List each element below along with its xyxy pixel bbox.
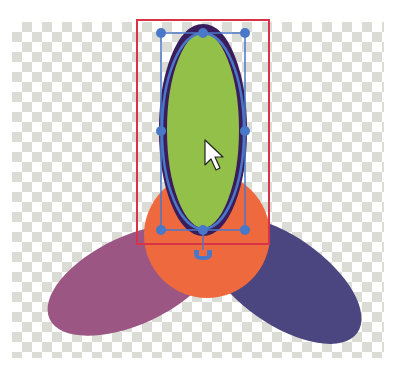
- handle-middle-left[interactable]: [156, 126, 166, 136]
- handle-top-center[interactable]: [198, 28, 208, 38]
- handle-middle-right[interactable]: [240, 126, 250, 136]
- handle-top-left[interactable]: [156, 28, 166, 38]
- artwork-layer[interactable]: [0, 0, 408, 371]
- handle-bottom-left[interactable]: [156, 225, 166, 235]
- handle-bottom-center[interactable]: [198, 225, 208, 235]
- handle-top-right[interactable]: [240, 28, 250, 38]
- handle-bottom-right[interactable]: [240, 225, 250, 235]
